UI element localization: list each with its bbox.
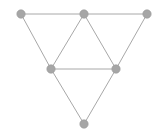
graph-diagram	[0, 0, 166, 139]
node-6	[80, 120, 88, 128]
node-4	[47, 65, 55, 73]
node-5	[112, 65, 120, 73]
edge-5-6	[84, 69, 116, 124]
node-1	[17, 10, 25, 18]
edge-4-6	[51, 69, 84, 124]
edge-2-4	[51, 14, 84, 69]
edges-layer	[21, 14, 147, 124]
node-2	[80, 10, 88, 18]
edge-1-4	[21, 14, 51, 69]
node-3	[143, 10, 151, 18]
edge-2-5	[84, 14, 116, 69]
edge-3-5	[116, 14, 147, 69]
